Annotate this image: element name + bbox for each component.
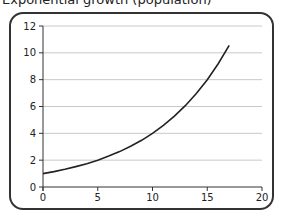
x-tick-label: 20 (256, 192, 269, 203)
y-tick-label: 0 (30, 182, 36, 193)
axes (39, 26, 262, 191)
data-curve (43, 45, 229, 173)
y-tick-label: 10 (23, 47, 36, 58)
y-tick-label: 12 (23, 21, 36, 32)
x-tick-label: 10 (146, 192, 159, 203)
y-tick-label: 4 (30, 128, 36, 139)
x-tick-label: 0 (40, 192, 46, 203)
x-tick-label: 5 (95, 192, 101, 203)
x-tick-label: 15 (201, 192, 214, 203)
y-tick-label: 2 (30, 155, 36, 166)
line-chart: 024681012 05101520 (0, 0, 283, 223)
y-tick-labels: 024681012 (23, 21, 36, 193)
y-tick-label: 8 (30, 74, 36, 85)
x-tick-labels: 05101520 (40, 192, 269, 203)
y-tick-label: 6 (30, 101, 36, 112)
